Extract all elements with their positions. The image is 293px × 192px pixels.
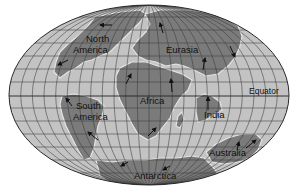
label-eurasia: Eurasia [166, 44, 199, 55]
label-antarctica: Antarctica [134, 170, 177, 181]
label-north-america: America [73, 44, 109, 55]
label-south-america: America [73, 111, 109, 122]
world-map: North America Eurasia Africa South Ameri… [0, 0, 293, 192]
label-australia: Australia [209, 147, 247, 158]
label-india: India [204, 109, 225, 120]
label-africa: Africa [140, 95, 165, 106]
label-north-america: North [86, 33, 109, 44]
label-equator: Equator [249, 86, 279, 96]
label-south-america: South [76, 100, 101, 111]
